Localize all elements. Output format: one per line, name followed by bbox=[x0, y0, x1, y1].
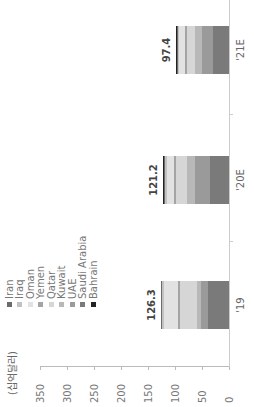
bar-segment-saudi-arabia bbox=[213, 26, 229, 74]
bar-segment-uae bbox=[195, 156, 210, 204]
y-axis-line bbox=[40, 366, 229, 367]
y-tick bbox=[40, 366, 41, 370]
legend-item: Bahrain bbox=[88, 236, 99, 307]
legend-swatch-icon bbox=[70, 302, 75, 307]
y-tick-label: 300 bbox=[61, 373, 72, 403]
legend-item: Saudi Arabia bbox=[78, 236, 89, 307]
legend: IranIraqOmanYemenQatarKuwaitUAESaudi Ara… bbox=[4, 236, 99, 307]
legend-swatch-icon bbox=[7, 302, 12, 307]
bar-total-label: 121.2 bbox=[148, 156, 159, 204]
legend-label: Qatar bbox=[46, 271, 57, 299]
bar-segment-qatar bbox=[187, 26, 196, 74]
y-tick bbox=[94, 366, 95, 370]
y-tick bbox=[202, 366, 203, 370]
bar-0 bbox=[161, 281, 229, 329]
legend-swatch-icon bbox=[38, 302, 43, 307]
legend-swatch-icon bbox=[91, 302, 96, 307]
legend-label: Kuwait bbox=[56, 266, 67, 299]
legend-label: Saudi Arabia bbox=[77, 236, 88, 299]
x-tick bbox=[229, 114, 233, 115]
category-label: '21E bbox=[235, 20, 246, 80]
bar-segment-oman bbox=[164, 281, 178, 329]
bar-segment-saudi-arabia bbox=[208, 281, 229, 329]
legend-label: Iraq bbox=[14, 279, 25, 299]
legend-swatch-icon bbox=[59, 302, 64, 307]
legend-swatch-icon bbox=[28, 302, 33, 307]
y-tick-label: 0 bbox=[224, 373, 235, 403]
legend-label: Iran bbox=[4, 279, 15, 299]
legend-swatch-icon bbox=[49, 302, 54, 307]
stacked-bar-chart: (십억달러) 050100150200250300350 IranIraqOma… bbox=[0, 0, 254, 407]
bar-total-label: 97.4 bbox=[161, 26, 172, 74]
bar-2 bbox=[176, 26, 229, 74]
legend-label: Oman bbox=[25, 269, 36, 299]
x-tick bbox=[229, 241, 233, 242]
y-tick bbox=[121, 366, 122, 370]
legend-item: Qatar bbox=[46, 236, 57, 307]
legend-label: UAE bbox=[67, 279, 78, 299]
x-axis-line bbox=[229, 0, 230, 367]
y-tick-label: 200 bbox=[115, 373, 126, 403]
y-tick-label: 100 bbox=[169, 373, 180, 403]
y-tick bbox=[148, 366, 149, 370]
category-label: '20E bbox=[235, 150, 246, 210]
legend-item: Kuwait bbox=[57, 236, 68, 307]
bar-segment-qatar bbox=[176, 156, 187, 204]
y-tick-label: 150 bbox=[142, 373, 153, 403]
bar-segment-kuwait bbox=[187, 156, 196, 204]
legend-label: Yemen bbox=[35, 266, 46, 299]
bar-segment-uae bbox=[202, 26, 213, 74]
legend-label: Bahrain bbox=[88, 260, 99, 299]
y-tick-label: 250 bbox=[88, 373, 99, 403]
unit-label: (십억달러) bbox=[4, 351, 19, 395]
legend-item: UAE bbox=[67, 236, 78, 307]
bar-segment-qatar bbox=[180, 281, 196, 329]
bar-segment-uae bbox=[201, 281, 208, 329]
y-tick bbox=[67, 366, 68, 370]
y-tick-label: 50 bbox=[196, 373, 207, 403]
bar-segment-oman bbox=[167, 156, 175, 204]
legend-item: Oman bbox=[25, 236, 36, 307]
legend-swatch-icon bbox=[17, 302, 22, 307]
bar-1 bbox=[163, 156, 229, 204]
category-label: '19 bbox=[235, 275, 246, 335]
bar-total-label: 126.3 bbox=[146, 281, 157, 329]
legend-item: Iran bbox=[4, 236, 15, 307]
y-tick bbox=[175, 366, 176, 370]
y-tick-label: 350 bbox=[34, 373, 45, 403]
legend-swatch-icon bbox=[80, 302, 85, 307]
legend-item: Yemen bbox=[36, 236, 47, 307]
bar-segment-saudi-arabia bbox=[210, 156, 229, 204]
legend-item: Iraq bbox=[15, 236, 26, 307]
